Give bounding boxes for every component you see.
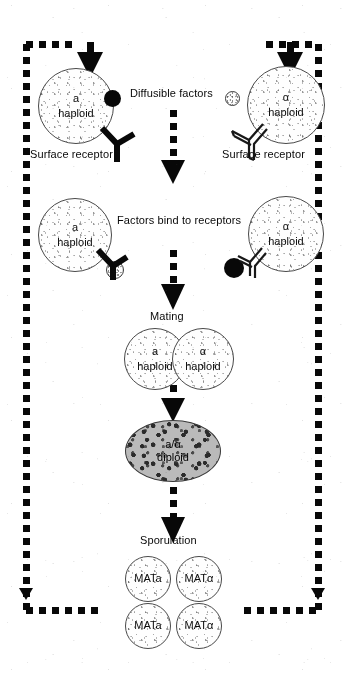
spore-label: MATa xyxy=(134,572,161,585)
spore-cell: MATα xyxy=(176,556,222,602)
cell-genotype-label: α xyxy=(283,220,289,233)
diploid-genotype-label: a/α xyxy=(165,438,181,451)
dashed-arrow-down-icon xyxy=(160,250,186,312)
sporulation-caption: Sporulation xyxy=(140,534,197,546)
diploid-cell: a/α diploid xyxy=(125,420,221,482)
cell-genotype-label: a xyxy=(152,345,158,358)
spore-cell: MATα xyxy=(176,603,222,649)
cell-genotype-label: a xyxy=(73,92,79,105)
figure-canvas: a haploid Surface receptor Diffusible fa… xyxy=(0,0,344,683)
surface-receptor-label-left: Surface receptor xyxy=(30,148,113,160)
surface-receptor-label-right: Surface receptor xyxy=(222,148,305,160)
diploid-ploidy-label: diploid xyxy=(157,451,189,464)
cell-genotype-label: α xyxy=(283,91,289,104)
cell-ploidy-label: haploid xyxy=(268,106,303,119)
spore-label: MATα xyxy=(185,619,214,632)
a-factor-icon xyxy=(104,90,121,107)
diffusible-factors-caption: Diffusible factors xyxy=(130,87,213,99)
cell-genotype-label: α xyxy=(200,345,206,358)
y-receptor-icon xyxy=(226,246,270,290)
cell-ploidy-label: haploid xyxy=(137,360,172,373)
cell-ploidy-label: haploid xyxy=(57,236,92,249)
spore-cell: MATa xyxy=(125,556,171,602)
cell-ploidy-label: haploid xyxy=(185,360,220,373)
cell-ploidy-label: haploid xyxy=(58,107,93,120)
alpha-factor-icon xyxy=(225,91,240,106)
y-receptor-icon xyxy=(222,122,270,168)
spore-cell: MATa xyxy=(125,603,171,649)
cell-ploidy-label: haploid xyxy=(268,235,303,248)
mating-cell-alpha: α haploid xyxy=(172,328,234,390)
dashed-arrow-down-icon xyxy=(160,110,186,186)
factors-bind-caption: Factors bind to receptors xyxy=(117,214,241,226)
mating-caption: Mating xyxy=(150,310,184,322)
y-receptor-icon xyxy=(94,248,138,290)
cell-genotype-label: a xyxy=(72,221,78,234)
y-receptor-icon xyxy=(96,124,142,168)
spore-label: MATa xyxy=(134,619,161,632)
spore-label: MATα xyxy=(185,572,214,585)
